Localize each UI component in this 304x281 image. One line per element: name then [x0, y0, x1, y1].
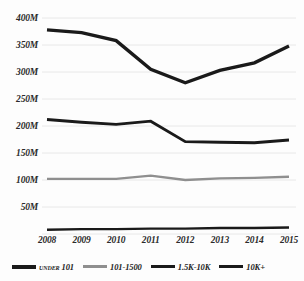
series-line — [47, 120, 289, 143]
x-axis-tick-label: 2015 — [279, 235, 299, 245]
legend-item[interactable]: Under 101 — [12, 262, 74, 272]
y-axis-tick-label: 300M — [15, 67, 39, 77]
legend-item[interactable]: 101-1500 — [83, 262, 142, 272]
series-line — [47, 30, 289, 83]
legend-item[interactable]: 1.5K-10K — [151, 262, 211, 272]
series-lines — [47, 30, 289, 230]
y-axis-tick-label: 100M — [16, 175, 39, 185]
legend-swatch-icon — [151, 265, 175, 268]
y-axis-tick-label: 400M — [15, 13, 39, 23]
x-axis-tick-label: 2012 — [175, 235, 195, 245]
x-axis-tick-labels: 20082009201020112012201320142015 — [37, 235, 299, 245]
x-axis-tick-label: 2010 — [106, 235, 126, 245]
y-axis-tick-label: 250M — [15, 94, 39, 104]
legend-swatch-icon — [219, 265, 243, 268]
legend-item[interactable]: 10K+ — [219, 262, 265, 272]
legend-item-label: 101-1500 — [110, 262, 142, 272]
x-axis-tick-label: 2011 — [141, 235, 160, 245]
chart-legend: Under 101101-15001.5K-10K10K+ — [0, 252, 304, 281]
legend-item-label: Under 101 — [39, 262, 74, 272]
series-line — [47, 228, 289, 230]
x-axis-tick-label: 2009 — [71, 235, 91, 245]
series-line — [47, 176, 289, 180]
gridlines — [42, 18, 296, 234]
legend-item-label: 1.5K-10K — [178, 262, 211, 272]
legend-item-label: 10K+ — [246, 262, 265, 272]
y-axis-tick-label: 200M — [15, 121, 39, 131]
legend-swatch-icon — [83, 265, 107, 268]
x-axis-tick-label: 2014 — [244, 235, 264, 245]
y-axis-tick-label: 150M — [16, 148, 39, 158]
y-axis-tick-labels: 50M100M150M200M250M300M350M400M — [15, 13, 39, 212]
chart-svg: 50M100M150M200M250M300M350M400M 20082009… — [0, 0, 304, 252]
y-axis-tick-label: 50M — [21, 202, 39, 212]
plot-area: 50M100M150M200M250M300M350M400M 20082009… — [0, 0, 304, 252]
x-axis-tick-label: 2013 — [210, 235, 230, 245]
legend-swatch-icon — [12, 265, 36, 269]
x-axis-tick-label: 2008 — [37, 235, 57, 245]
line-chart: 50M100M150M200M250M300M350M400M 20082009… — [0, 0, 304, 281]
y-axis-tick-label: 350M — [15, 40, 39, 50]
